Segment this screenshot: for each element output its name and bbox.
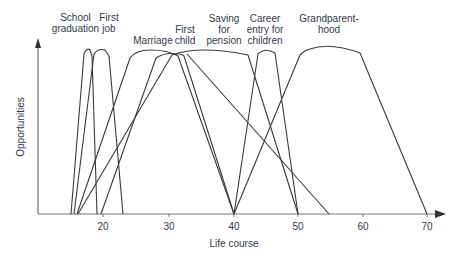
label-grandparenthood: Grandparent- hood bbox=[294, 13, 364, 35]
x-tick-50: 50 bbox=[292, 221, 303, 232]
curve-grandparenthood bbox=[234, 46, 427, 214]
y-axis-label: Opportunities bbox=[15, 97, 26, 156]
label-saving-for-pension: Saving for pension bbox=[202, 13, 246, 46]
curve-first-job bbox=[74, 50, 123, 215]
x-tick-40: 40 bbox=[228, 221, 239, 232]
x-tick-30: 30 bbox=[163, 221, 174, 232]
y-axis-arrow-icon bbox=[35, 38, 41, 48]
x-axis-label: Life course bbox=[210, 238, 259, 249]
x-tick-60: 60 bbox=[357, 221, 368, 232]
curve-career-entry bbox=[234, 50, 298, 214]
label-first-job: First job bbox=[94, 12, 124, 34]
x-axis-arrow-icon bbox=[435, 210, 446, 218]
x-tick-70: 70 bbox=[421, 221, 432, 232]
x-tick-20: 20 bbox=[97, 221, 108, 232]
label-first-child: First child bbox=[170, 24, 200, 46]
label-career-entry: Career entry for children bbox=[243, 13, 287, 46]
curve-marriage bbox=[77, 50, 234, 214]
